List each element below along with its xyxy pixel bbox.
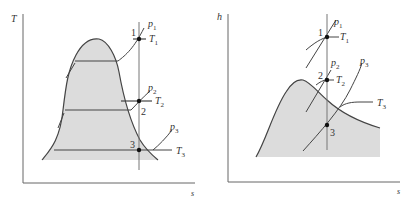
ts-state-label-2: 2 [141,106,146,117]
hs-state-label-2: 2 [318,70,323,81]
hs-state-point-3 [325,123,329,127]
ts-diagram: T s 1 2 3 p1 T1 p2 T2 p3 T3 [11,13,195,198]
ts-y-axis-label: T [11,13,18,24]
hs-x-axis-label: s [397,187,400,196]
hs-isotherm-t1 [306,37,339,50]
ts-state-point-1 [137,37,141,41]
hs-label-t3: T3 [377,97,387,111]
diagrams-canvas: T s 1 2 3 p1 T1 p2 T2 p3 T3 [0,0,410,203]
ts-state-point-3 [137,148,141,152]
ts-label-t1: T1 [149,33,159,47]
hs-state-point-1 [325,35,329,39]
ts-state-label-1: 1 [131,27,136,38]
hs-label-p2: p2 [330,57,340,71]
hs-diagram: h s 1 2 3 p1 T1 p2 T2 p3 T3 [217,11,400,196]
ts-label-p1: p1 [147,18,157,32]
ts-isobar-p3 [153,130,172,150]
hs-label-t2: T2 [336,74,346,88]
hs-isotherm-t3 [340,102,373,107]
ts-state-point-2 [137,99,141,103]
ts-label-t3: T3 [176,145,186,159]
hs-state-label-1: 1 [318,27,323,38]
hs-state-label-3: 3 [330,127,335,138]
ts-x-axis-label: s [191,189,194,198]
hs-y-axis-label: h [217,11,222,22]
ts-label-p3: p3 [169,121,179,135]
hs-label-p1: p1 [333,16,343,30]
ts-label-t2: T2 [155,95,165,109]
ts-state-label-3: 3 [130,139,135,150]
hs-label-t1: T1 [340,31,350,45]
hs-state-point-2 [325,78,329,82]
ts-label-p2: p2 [147,82,157,96]
